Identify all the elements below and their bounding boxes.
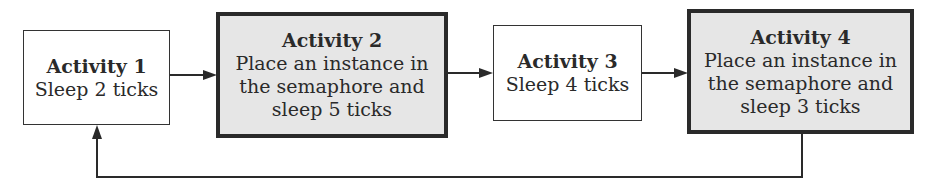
arrow-2-to-3-line (448, 72, 480, 74)
activity-1-title: Activity 1 (46, 55, 146, 78)
activity-4-box: Activity 4 Place an instance in the sema… (687, 9, 914, 134)
activity-4-line-1: Place an instance in (704, 49, 897, 72)
arrow-2-to-3-head-icon (479, 68, 493, 78)
activity-2-box: Activity 2 Place an instance in the sema… (216, 12, 448, 138)
activity-3-title: Activity 3 (517, 50, 617, 73)
loop-back-horizontal-line (96, 176, 803, 178)
loop-back-down-line (801, 134, 803, 178)
activity-2-line-3: sleep 5 ticks (272, 98, 392, 121)
loop-back-up-line (96, 138, 98, 178)
activity-2-line-1: Place an instance in (235, 52, 428, 75)
activity-4-line-2: the semaphore and (708, 72, 893, 95)
activity-4-line-3: sleep 3 ticks (740, 95, 860, 118)
activity-2-line-2: the semaphore and (239, 75, 424, 98)
activity-4-title: Activity 4 (750, 26, 850, 49)
activity-1-box: Activity 1 Sleep 2 ticks (23, 30, 170, 125)
activity-2-title: Activity 2 (282, 29, 382, 52)
arrow-1-to-2-line (170, 74, 204, 76)
arrow-1-to-2-head-icon (203, 70, 217, 80)
activity-3-box: Activity 3 Sleep 4 ticks (493, 25, 642, 121)
arrow-3-to-4-head-icon (674, 68, 688, 78)
arrow-3-to-4-line (642, 72, 675, 74)
loop-back-head-icon (92, 125, 102, 139)
activity-1-line-1: Sleep 2 ticks (35, 78, 159, 101)
activity-3-line-1: Sleep 4 ticks (506, 73, 630, 96)
